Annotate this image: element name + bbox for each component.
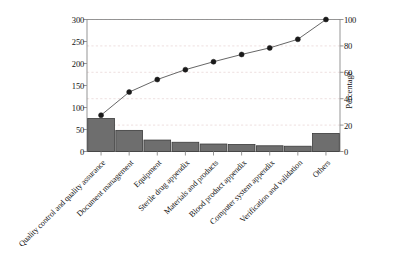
x-axis-category-labels: Quality control and quality assuranceDoc…	[0, 0, 394, 277]
pareto-chart: 300 250 200 150 100 50 0 100 80 60 40 20…	[0, 0, 394, 277]
